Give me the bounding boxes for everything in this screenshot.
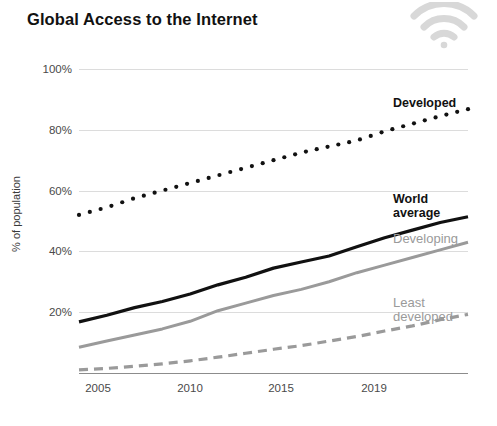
x-axis: 2005 2010 2015 2019 xyxy=(0,382,497,402)
y-tick-100: 100% xyxy=(10,63,72,75)
series-layer xyxy=(79,69,468,373)
least-developed-line2: developed xyxy=(393,309,453,324)
y-axis-title: % of population xyxy=(10,154,22,274)
wifi-icon xyxy=(408,2,480,50)
series-label-developed: Developed xyxy=(393,96,456,110)
series-label-world-average: Worldaverage xyxy=(393,192,440,220)
page-title: Global Access to the Internet xyxy=(27,10,258,29)
x-tick-2005: 2005 xyxy=(85,382,111,394)
x-tick-2019: 2019 xyxy=(361,382,387,394)
chart-container: Global Access to the Internet 100% 80% 6… xyxy=(0,0,497,426)
x-tick-2015: 2015 xyxy=(268,382,294,394)
least-developed-line1: Least xyxy=(393,295,425,310)
series-label-least-developed: Leastdeveloped xyxy=(393,296,453,324)
series-label-developing: Developing xyxy=(393,232,458,246)
x-axis-line xyxy=(79,373,468,374)
world-average-line2: average xyxy=(393,206,440,220)
plot-area xyxy=(79,69,468,373)
y-tick-80: 80% xyxy=(10,124,72,136)
x-tick-2010: 2010 xyxy=(177,382,203,394)
y-tick-20: 20% xyxy=(10,306,72,318)
world-average-line1: World xyxy=(393,192,428,206)
